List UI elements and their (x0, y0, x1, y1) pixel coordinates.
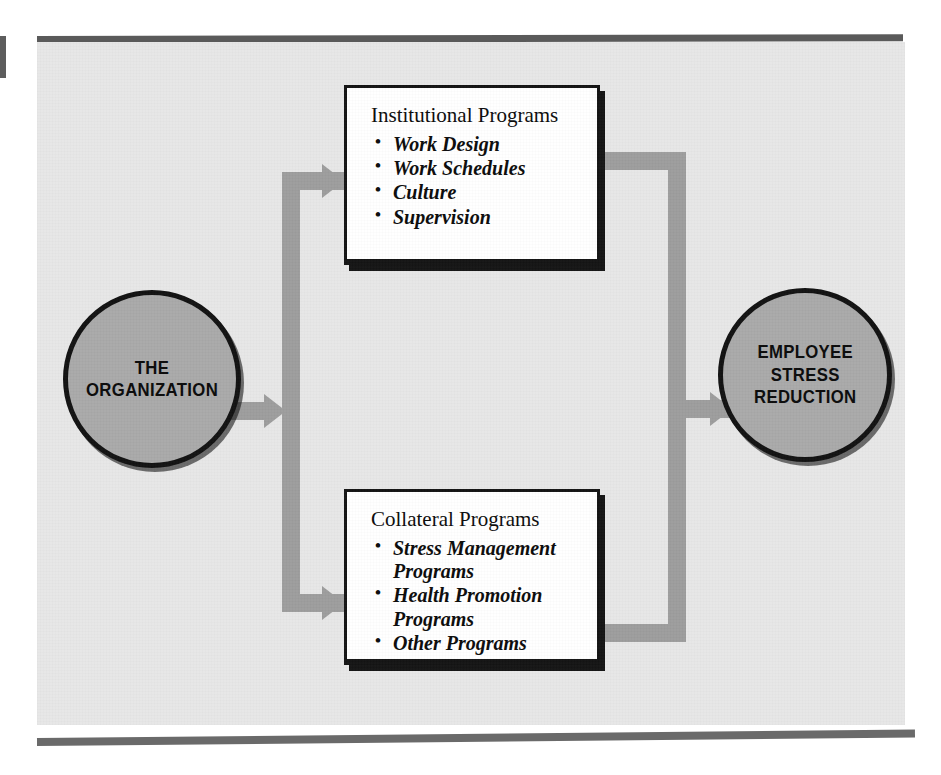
box-collateral-programs-title: Collateral Programs (371, 508, 581, 531)
list-item-text-continued: Programs (393, 560, 581, 583)
arrowhead-to-collateral-programs (322, 586, 344, 620)
node-employee-stress-reduction-label: EMPLOYEE STRESS REDUCTION (754, 341, 857, 408)
list-item: Work Design (373, 133, 581, 156)
node-the-organization-label: THE ORGANIZATION (86, 357, 218, 402)
list-item-text-continued: Programs (393, 608, 581, 631)
diagram-panel: THE ORGANIZATION EMPLOYEE STRESS REDUCTI… (37, 42, 905, 725)
list-item: Work Schedules (373, 157, 581, 180)
box-collateral-programs-list: Stress Management Programs Health Promot… (369, 537, 581, 655)
list-item: Supervision (373, 206, 581, 229)
list-item-text: Health Promotion (393, 584, 542, 606)
list-item-text: Work Schedules (393, 157, 525, 179)
list-item-text: Supervision (393, 206, 491, 228)
box-institutional-programs-title: Institutional Programs (371, 104, 581, 127)
list-item-text: Stress Management (393, 537, 556, 559)
connector-left-trunk (282, 172, 300, 612)
bottom-rule (37, 730, 915, 746)
list-item: Culture (373, 181, 581, 204)
box-institutional-programs-list: Work Design Work Schedules Culture Super… (369, 133, 581, 229)
arrowhead-to-institutional-programs (322, 164, 344, 198)
list-item: Other Programs (373, 632, 581, 655)
node-employee-stress-reduction[interactable]: EMPLOYEE STRESS REDUCTION (718, 288, 892, 462)
connector-right-trunk (668, 152, 686, 642)
page-edge-marker (0, 36, 6, 78)
list-item: Stress Management Programs (373, 537, 581, 583)
list-item-text: Work Design (393, 133, 500, 155)
box-collateral-programs[interactable]: Collateral Programs Stress Management Pr… (344, 489, 600, 665)
list-item: Health Promotion Programs (373, 584, 581, 630)
figure-page: THE ORGANIZATION EMPLOYEE STRESS REDUCTI… (0, 0, 941, 775)
list-item-text: Other Programs (393, 632, 527, 654)
box-institutional-programs[interactable]: Institutional Programs Work Design Work … (344, 85, 600, 265)
node-the-organization[interactable]: THE ORGANIZATION (63, 290, 241, 468)
list-item-text: Culture (393, 181, 456, 203)
